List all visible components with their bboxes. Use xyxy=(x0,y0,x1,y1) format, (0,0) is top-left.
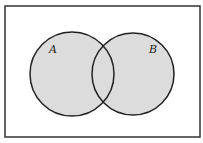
set-b-label: B xyxy=(148,43,157,56)
venn-diagram: A B xyxy=(0,0,203,143)
set-a-label: A xyxy=(48,43,57,56)
